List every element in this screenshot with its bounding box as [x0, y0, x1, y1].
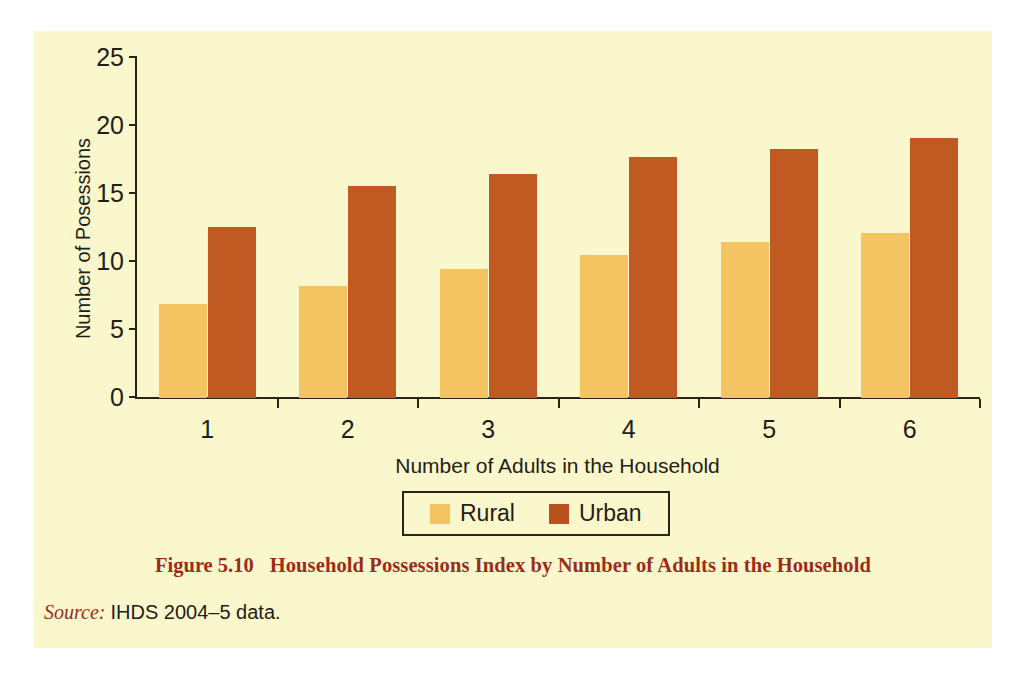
y-tick-20	[129, 124, 137, 126]
bar-urban-1	[208, 227, 256, 398]
bar-rural-1	[159, 304, 207, 398]
legend-swatch-urban-icon	[549, 504, 569, 524]
y-tick-10	[129, 260, 137, 262]
bar-rural-4	[580, 255, 628, 398]
bar-urban-6	[910, 138, 958, 398]
chart-legend: Rural Urban	[402, 491, 670, 536]
y-tick-5	[129, 328, 137, 330]
x-tick-label-5: 5	[739, 417, 799, 442]
x-tick-label-3: 3	[458, 417, 518, 442]
x-tick-label-4: 4	[599, 417, 659, 442]
x-tick-2	[417, 399, 419, 408]
figure-caption: Figure 5.10Household Possessions Index b…	[34, 554, 992, 577]
y-tick-label-25: 25	[54, 45, 124, 70]
x-tick-3	[558, 399, 560, 408]
figure-root: 0510152025 123456 Number of Posessions N…	[0, 0, 1024, 686]
figure-source: Source:IHDS 2004–5 data.	[44, 601, 944, 624]
x-tick-4	[698, 399, 700, 408]
y-tick-0	[129, 396, 137, 398]
x-tick-6	[979, 399, 981, 408]
legend-label-rural: Rural	[460, 502, 515, 525]
figure-number: Figure 5.10	[155, 554, 254, 576]
x-tick-label-6: 6	[880, 417, 940, 442]
plot-area: 0510152025 123456 Number of Posessions N…	[34, 31, 992, 431]
figure-title: Household Possessions Index by Number of…	[270, 554, 871, 576]
bar-rural-3	[440, 269, 488, 398]
x-tick-label-2: 2	[318, 417, 378, 442]
x-tick-5	[839, 399, 841, 408]
bar-rural-5	[721, 242, 769, 398]
source-value: IHDS 2004–5 data.	[110, 601, 280, 623]
y-axis-title: Number of Posessions	[72, 74, 95, 404]
y-tick-25	[129, 56, 137, 58]
bar-urban-4	[629, 157, 677, 398]
y-tick-15	[129, 192, 137, 194]
legend-label-urban: Urban	[579, 502, 642, 525]
x-tick-label-1: 1	[177, 417, 237, 442]
bar-urban-5	[770, 149, 818, 398]
source-label: Source:	[44, 601, 105, 623]
legend-entry-urban: Urban	[549, 502, 642, 525]
bars-layer	[137, 57, 980, 398]
bar-rural-6	[861, 233, 909, 398]
figure-panel: 0510152025 123456 Number of Posessions N…	[34, 31, 992, 648]
x-tick-1	[277, 399, 279, 408]
x-axis-title: Number of Adults in the Household	[135, 454, 980, 478]
legend-swatch-rural-icon	[430, 504, 450, 524]
bar-urban-3	[489, 174, 537, 398]
legend-entry-rural: Rural	[430, 502, 515, 525]
bar-rural-2	[299, 286, 347, 398]
bar-urban-2	[348, 186, 396, 398]
